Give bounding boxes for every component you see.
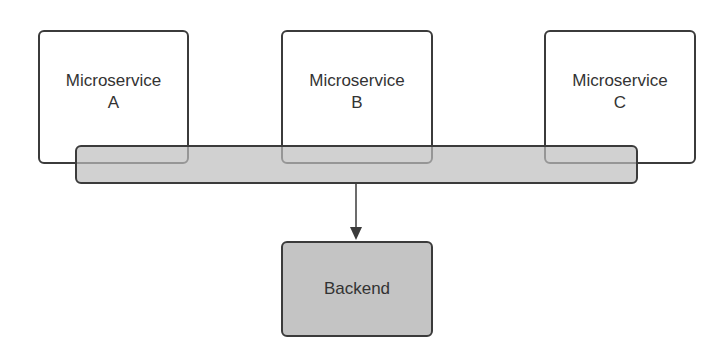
backend-node: Backend bbox=[281, 241, 433, 337]
backend-label: Backend bbox=[324, 279, 390, 299]
